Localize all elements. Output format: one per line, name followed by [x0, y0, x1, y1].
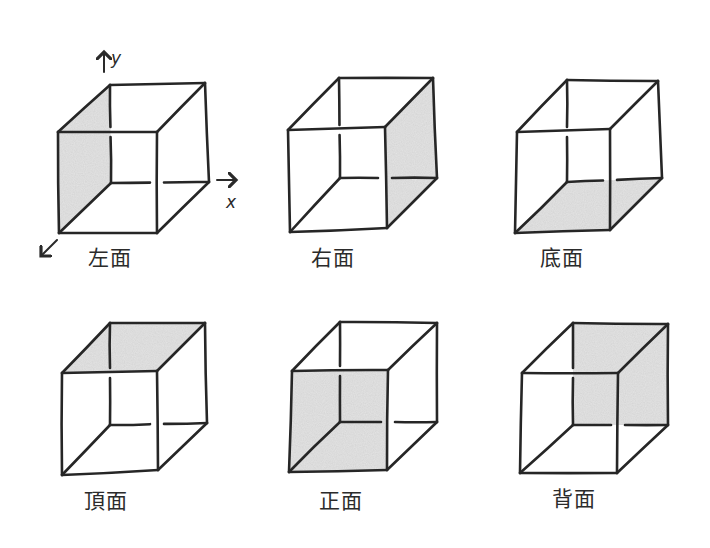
cube-edge — [205, 323, 207, 423]
x-axis-label: x — [225, 192, 237, 212]
cube-edge — [110, 83, 205, 85]
cube-edge — [387, 422, 437, 470]
label-top-face: 頂面 — [84, 491, 128, 512]
cube-edge — [62, 425, 110, 475]
cube-edge — [340, 322, 437, 323]
hidden-edge — [164, 182, 209, 183]
hidden-edge — [567, 180, 603, 182]
cube-edge — [158, 423, 207, 470]
cube-edge — [292, 322, 340, 371]
cube-edge — [567, 80, 658, 81]
cube-edge — [573, 323, 668, 324]
cube-edge — [205, 83, 209, 182]
cube-edge — [157, 371, 158, 470]
cube-edge — [288, 127, 385, 130]
cube-edge — [658, 81, 662, 178]
cube-edge — [157, 182, 209, 233]
cube-edge — [292, 370, 388, 371]
cube-edge — [388, 323, 437, 370]
shaded-top-face — [62, 323, 205, 373]
cube-edge — [288, 130, 290, 232]
label-right-face: 右面 — [311, 248, 355, 269]
cube-edge — [517, 129, 610, 132]
hidden-edge — [110, 424, 150, 425]
cube-edge — [62, 470, 158, 475]
cube-edge — [522, 323, 573, 373]
cube-edge — [58, 132, 59, 233]
cube-edge — [520, 425, 573, 473]
label-left-face: 左面 — [88, 248, 132, 269]
cube-edge — [515, 132, 517, 233]
shaded-bottom-face — [515, 178, 662, 233]
z-axis-arrow-icon — [41, 240, 57, 256]
label-back-face: 背面 — [552, 489, 596, 510]
hidden-edge — [110, 85, 111, 127]
cube-edge — [387, 370, 388, 470]
cube-edge — [610, 81, 658, 129]
cube-edge — [617, 425, 668, 473]
label-bottom-face: 底面 — [540, 248, 584, 269]
cube-edge — [290, 228, 387, 232]
cube-edge — [517, 80, 567, 132]
cube-edge — [157, 83, 205, 132]
label-front-face: 正面 — [319, 491, 363, 512]
cube-edge — [290, 178, 340, 232]
cube-edge — [617, 373, 618, 473]
hidden-edge — [164, 423, 207, 424]
cube-faces-diagram: y x — [0, 0, 710, 548]
cube-edge — [288, 78, 339, 130]
hidden-edge — [111, 137, 112, 183]
shaded-faces-layer — [58, 78, 668, 472]
cube-edge — [520, 373, 522, 473]
y-axis-label: y — [110, 48, 122, 68]
